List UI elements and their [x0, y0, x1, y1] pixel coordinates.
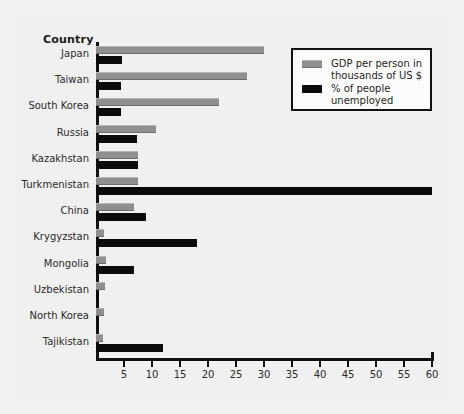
bar-unemployed: [96, 187, 432, 195]
x-axis-tick: [263, 358, 265, 367]
x-axis-tick-label: 30: [258, 369, 271, 380]
category-label: Taiwan: [55, 74, 89, 85]
category-label: Turkmenistan: [22, 179, 89, 190]
bar-unemployed: [96, 344, 163, 352]
unemployed-swatch-icon: [302, 85, 322, 93]
bar-unemployed: [96, 213, 146, 221]
x-axis-tick: [375, 358, 377, 367]
bar-unemployed: [96, 266, 134, 274]
x-axis-tick: [347, 358, 349, 367]
bar-gdp: [96, 229, 104, 237]
x-axis-tick-label: 45: [342, 369, 355, 380]
legend-label-unemployed: % of people unemployed: [331, 83, 393, 107]
chart-row: Mongolia: [96, 255, 432, 281]
bar-gdp: [96, 177, 138, 185]
category-label: Uzbekistan: [34, 284, 89, 295]
x-axis-tick-label: 10: [146, 369, 159, 380]
x-axis-tick: [291, 358, 293, 367]
x-axis-tick: [151, 358, 153, 367]
bar-unemployed: [96, 239, 197, 247]
category-label: North Korea: [30, 310, 90, 321]
chart-row: Uzbekistan: [96, 281, 432, 307]
category-label: Krygyzstan: [33, 231, 89, 242]
x-axis-tick-label: 25: [230, 369, 243, 380]
bar-gdp: [96, 72, 247, 80]
category-label: Mongolia: [44, 258, 89, 269]
bar-gdp: [96, 256, 106, 264]
x-axis-tick-label: 50: [370, 369, 383, 380]
x-axis-tick-label: 35: [286, 369, 299, 380]
legend-item-gdp: GDP per person in thousands of US $: [302, 58, 422, 82]
chart-row: Russia: [96, 124, 432, 150]
x-axis-tick-label: 15: [174, 369, 187, 380]
category-label: Kazakhstan: [31, 153, 89, 164]
y-axis-title: Country: [43, 33, 94, 46]
gdp-swatch-icon: [302, 60, 322, 68]
bar-unemployed: [96, 292, 99, 300]
chart-row: Turkmenistan: [96, 176, 432, 202]
x-axis-tick-label: 40: [314, 369, 327, 380]
chart-legend: GDP per person in thousands of US $ % of…: [291, 48, 432, 111]
x-axis-tick: [403, 358, 405, 367]
legend-item-unemployed: % of people unemployed: [302, 83, 393, 107]
x-axis-tick-label: 55: [398, 369, 411, 380]
x-axis-tick: [179, 358, 181, 367]
x-axis-tick-label: 60: [426, 369, 439, 380]
category-label: China: [60, 205, 89, 216]
category-label: Russia: [57, 127, 89, 138]
legend-label-gdp: GDP per person in thousands of US $: [331, 58, 422, 82]
bar-gdp: [96, 46, 264, 54]
chart-row: Tajikistan: [96, 333, 432, 359]
bar-unemployed: [96, 56, 122, 64]
bar-gdp: [96, 334, 103, 342]
x-axis-tick: [319, 358, 321, 367]
category-label: South Korea: [28, 100, 89, 111]
x-axis-tick-label: 5: [121, 369, 127, 380]
bar-gdp: [96, 308, 104, 316]
bar-gdp: [96, 203, 134, 211]
bar-gdp: [96, 125, 156, 133]
chart-figure: Country JapanTaiwanSouth KoreaRussiaKaza…: [0, 0, 464, 414]
bar-gdp: [96, 98, 219, 106]
category-label: Tajikistan: [43, 336, 89, 347]
x-axis-tick: [431, 358, 433, 367]
bar-unemployed: [96, 161, 138, 169]
bar-unemployed: [96, 82, 121, 90]
bar-gdp: [96, 151, 138, 159]
x-axis-tick: [235, 358, 237, 367]
chart-row: North Korea: [96, 307, 432, 333]
chart-row: Krygyzstan: [96, 228, 432, 254]
chart-row: China: [96, 202, 432, 228]
x-axis-tick-label: 20: [202, 369, 215, 380]
bar-unemployed: [96, 108, 121, 116]
x-axis-tick: [123, 358, 125, 367]
bar-unemployed: [96, 135, 137, 143]
bar-gdp: [96, 282, 105, 290]
category-label: Japan: [61, 48, 89, 59]
x-axis-tick: [207, 358, 209, 367]
chart-row: Kazakhstan: [96, 150, 432, 176]
